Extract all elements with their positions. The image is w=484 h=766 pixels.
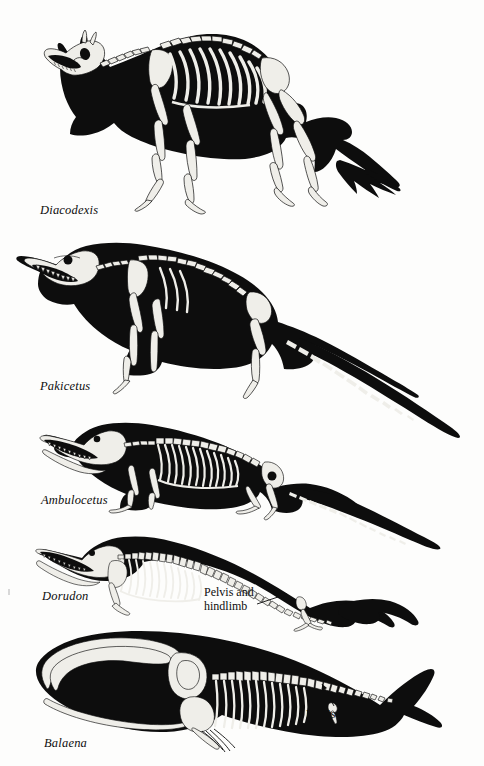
annotation-line-1: Pelvis and (204, 586, 254, 600)
whale-evolution-figure: Diacodexis (0, 0, 484, 766)
label-diacodexis: Diacodexis (40, 203, 98, 218)
annotation-leader-dorudon (255, 580, 315, 620)
specimen-diacodexis (0, 10, 484, 210)
label-pakicetus: Pakicetus (40, 379, 90, 394)
specimen-pakicetus (0, 234, 484, 394)
specimen-ambulocetus (0, 410, 484, 505)
annotation-line-2: hindlimb (204, 600, 254, 614)
annotation-line-2: hindlimb (306, 722, 356, 736)
diacodexis-body-silhouette (58, 34, 401, 198)
label-ambulocetus: Ambulocetus (41, 493, 108, 508)
label-balaena: Balaena (44, 736, 87, 751)
label-dorudon: Dorudon (42, 589, 89, 604)
annotation-dorudon-pelvis: Pelvis and hindlimb (204, 586, 254, 613)
specimen-balaena (0, 625, 484, 750)
page-speck (8, 589, 10, 595)
annotation-leader-balaena (318, 678, 358, 718)
